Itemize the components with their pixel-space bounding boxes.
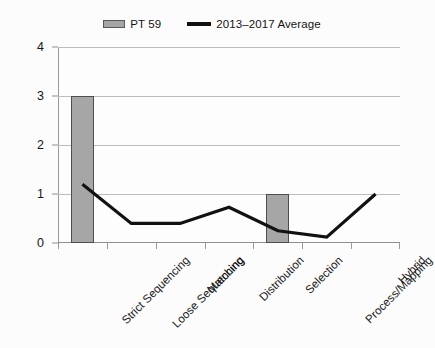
x-tick-2 — [156, 243, 157, 249]
legend-bar-swatch-icon — [103, 20, 125, 28]
y-tick-label-4: 4 — [37, 40, 44, 54]
x-label-3: Distribution — [257, 254, 306, 303]
legend-item-average[interactable]: 2013–2017 Average — [187, 18, 320, 30]
line-series-average — [58, 47, 400, 243]
x-tick-1 — [107, 243, 108, 249]
y-axis: 0 1 2 3 4 — [0, 47, 58, 243]
chart-legend: PT 59 2013–2017 Average — [0, 18, 424, 30]
legend-item-pt-59[interactable]: PT 59 — [103, 18, 161, 30]
y-tick-label-0: 0 — [37, 236, 44, 250]
x-tick-7 — [399, 243, 400, 249]
x-label-4: Selection — [302, 254, 344, 296]
legend-label-pt-59: PT 59 — [130, 18, 161, 30]
x-axis — [58, 243, 400, 250]
x-tick-5 — [302, 243, 303, 249]
x-tick-6 — [351, 243, 352, 249]
y-tick-label-3: 3 — [37, 89, 44, 103]
legend-line-swatch-icon — [187, 22, 211, 26]
y-tick-label-2: 2 — [37, 138, 44, 152]
x-tick-4 — [253, 243, 254, 249]
x-tick-0 — [58, 243, 59, 249]
y-tick-label-1: 1 — [37, 187, 44, 201]
x-label-2: Matching — [205, 254, 246, 295]
legend-label-average: 2013–2017 Average — [216, 18, 320, 30]
plot-area — [58, 47, 400, 243]
x-axis-category-labels: Strict SequencingLoose SequencingMatchin… — [0, 250, 424, 348]
x-tick-3 — [205, 243, 206, 249]
